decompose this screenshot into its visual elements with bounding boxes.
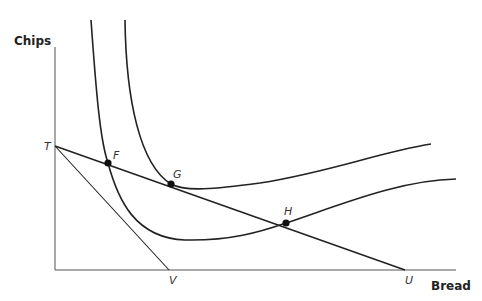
y-axis-label: Chips <box>14 34 51 48</box>
point-g-label: G <box>173 168 182 181</box>
point-u-label: U <box>405 274 413 287</box>
point-g-marker <box>167 180 174 187</box>
point-h-marker <box>282 219 289 226</box>
point-t-label: T <box>44 140 52 153</box>
x-axis-label: Bread <box>431 279 471 293</box>
indifference-curve-lower <box>91 20 456 240</box>
indifference-curve-upper <box>125 20 431 189</box>
consumer-choice-diagram: Chips Bread T F G H V U <box>0 0 482 301</box>
point-f-label: F <box>113 149 120 162</box>
point-h-label: H <box>284 205 292 218</box>
point-v-label: V <box>169 274 178 287</box>
point-f-marker <box>104 159 111 166</box>
